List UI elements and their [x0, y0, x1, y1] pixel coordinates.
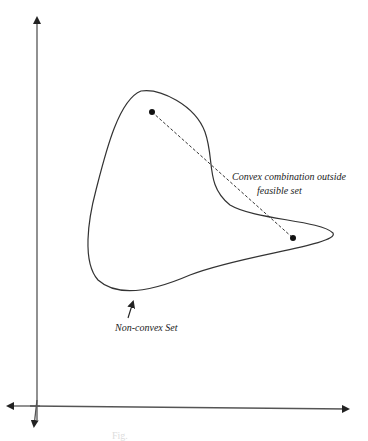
annotation-line1: Convex combination outside	[232, 171, 346, 182]
point-b	[290, 235, 296, 241]
set-label: Non-convex Set	[115, 322, 177, 333]
figure-caption: Fig.	[112, 430, 128, 441]
set-label-arrow	[128, 302, 133, 318]
point-a	[149, 109, 155, 115]
x-axis	[30, 406, 348, 409]
annotation-line2: feasible set	[257, 185, 302, 196]
